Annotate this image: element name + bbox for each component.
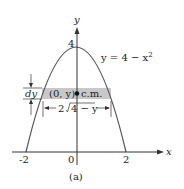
- y-axis-arrow-icon: [75, 27, 80, 34]
- dy-label: dy: [25, 89, 37, 99]
- figure-caption: (a): [69, 172, 83, 182]
- x-tick-neg2: -2: [19, 155, 29, 165]
- center-coord-label: (0, y): [49, 89, 75, 99]
- x-axis-arrow-icon: [157, 150, 164, 155]
- dy-up-arrow-icon: [29, 99, 33, 104]
- width-right-arrow-icon: [105, 106, 110, 110]
- width-prefix: 2: [58, 104, 64, 114]
- x-axis-label: x: [166, 147, 172, 157]
- y-tick-4: 4: [68, 39, 74, 49]
- curve-equation: y = 4 − x2: [101, 52, 153, 63]
- curve-equation-exponent: 2: [148, 51, 152, 59]
- x-tick-0: 0: [68, 155, 74, 165]
- width-radicand: 4 − y: [71, 104, 98, 114]
- center-of-mass-dot: [75, 91, 80, 96]
- curve-equation-base: y = 4 − x: [101, 52, 148, 63]
- x-tick-2: 2: [123, 155, 129, 165]
- width-left-arrow-icon: [44, 106, 49, 110]
- y-axis-label: y: [74, 15, 80, 25]
- cm-label: c.m.: [81, 89, 102, 99]
